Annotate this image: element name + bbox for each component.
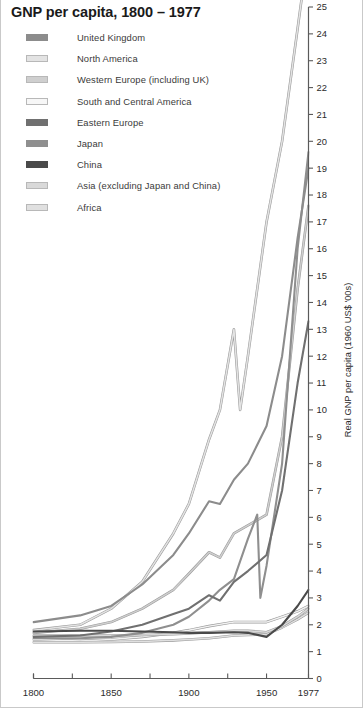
- y-tick-label: 23: [317, 55, 327, 66]
- y-tick-label: 17: [317, 216, 327, 227]
- y-tick-label: 14: [317, 297, 327, 308]
- y-tick-label: 13: [317, 324, 327, 335]
- x-tick-label: 1800: [23, 687, 44, 698]
- y-tick-label: 21: [317, 109, 327, 120]
- x-tick-label: 1977: [298, 687, 319, 698]
- y-tick-label: 1: [317, 646, 322, 657]
- y-tick-label: 19: [317, 163, 327, 174]
- plot-area: 0123456789101112131415161718192021222324…: [0, 0, 363, 708]
- y-tick-label: 3: [317, 592, 322, 603]
- y-tick-label: 22: [317, 82, 327, 93]
- y-tick-label: 8: [317, 458, 322, 469]
- y-tick-label: 7: [317, 485, 322, 496]
- y-tick-label: 12: [317, 351, 327, 362]
- series-group: [34, 0, 309, 642]
- y-tick-label: 10: [317, 404, 327, 415]
- y-tick-label: 9: [317, 431, 322, 442]
- y-tick-label: 4: [317, 565, 322, 576]
- y-tick-label: 16: [317, 243, 327, 254]
- y-tick-label: 11: [317, 377, 327, 388]
- y-tick-label: 15: [317, 270, 327, 281]
- series-line: [34, 321, 309, 637]
- y-tick-label: 24: [317, 28, 327, 39]
- y-tick-label: 0: [317, 673, 322, 684]
- y-tick-label: 6: [317, 512, 322, 523]
- y-tick-label: 2: [317, 619, 322, 630]
- series-line-outline: [34, 0, 309, 630]
- y-tick-label: 25: [317, 1, 327, 12]
- y-tick-label: 5: [317, 539, 322, 550]
- x-tick-label: 1950: [256, 687, 277, 698]
- y-tick-label: 18: [317, 189, 327, 200]
- series-line: [34, 590, 309, 637]
- chart-svg: 0123456789101112131415161718192021222324…: [0, 0, 363, 708]
- x-tick-label: 1850: [101, 687, 122, 698]
- y-tick-label: 20: [317, 136, 327, 147]
- y-axis-title: Real GNP per capita (1960 US$ '00s): [343, 283, 353, 438]
- x-tick-label: 1900: [178, 687, 199, 698]
